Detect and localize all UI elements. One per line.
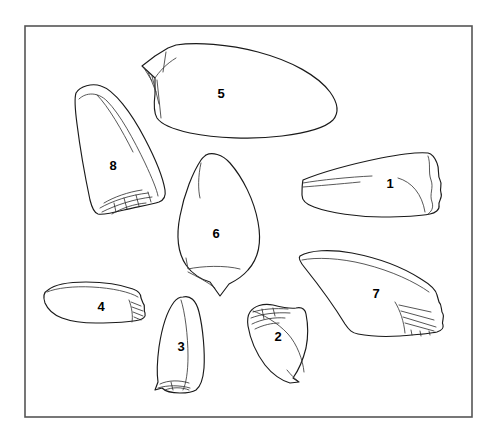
artifact-2-number: 2 [274, 329, 281, 344]
artifact-8: 8 [75, 85, 165, 214]
artifact-3-number: 3 [177, 339, 184, 354]
artifact-1-number: 1 [386, 176, 393, 191]
artifact-4: 4 [44, 282, 145, 323]
artifact-6-outline [178, 154, 260, 296]
artifact-5: 5 [142, 44, 337, 138]
artifact-3: 3 [155, 297, 204, 393]
artifact-plate: 5 8 1 [0, 0, 490, 440]
artifact-4-number: 4 [97, 299, 105, 314]
artifact-5-number: 5 [217, 86, 224, 101]
artifact-1-outline [302, 153, 441, 217]
artifact-2: 2 [248, 304, 308, 383]
artifact-8-outline [75, 85, 165, 214]
artifact-6-number: 6 [212, 226, 219, 241]
artifact-8-number: 8 [109, 158, 116, 173]
artifact-7: 7 [299, 251, 443, 337]
artifact-7-number: 7 [372, 286, 379, 301]
artifact-plate-drawing: 5 8 1 [0, 0, 490, 440]
artifact-1: 1 [302, 153, 441, 217]
artifact-5-outline [142, 44, 337, 138]
artifact-6: 6 [178, 154, 260, 296]
